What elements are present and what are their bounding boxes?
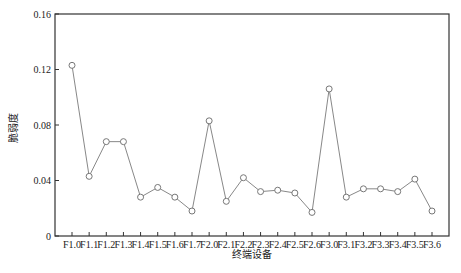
y-tick-label: 0 (46, 231, 51, 242)
data-point-marker (429, 208, 435, 214)
data-point-marker (138, 194, 144, 200)
plot-frame (55, 14, 449, 236)
x-tick-label: F3.2 (354, 239, 372, 250)
x-tick-label: F1.1 (80, 239, 98, 250)
data-point-marker (395, 189, 401, 195)
x-tick-label: F1.3 (114, 239, 132, 250)
data-point-marker (412, 176, 418, 182)
data-point-marker (172, 194, 178, 200)
data-series (69, 62, 435, 215)
data-point-marker (240, 175, 246, 181)
x-tick-label: F1.5 (149, 239, 167, 250)
x-axis-ticks: F1.0F1.1F1.2F1.3F1.4F1.5F1.6F1.7F2.0F2.1… (63, 232, 441, 250)
data-point-marker (309, 209, 315, 215)
data-point-marker (292, 190, 298, 196)
data-point-marker (69, 62, 75, 68)
x-tick-label: F3.5 (406, 239, 424, 250)
data-point-marker (86, 173, 92, 179)
data-point-marker (326, 86, 332, 92)
data-point-marker (206, 118, 212, 124)
y-tick-label: 0.16 (34, 9, 52, 20)
y-axis-title: 脆弱度 (7, 113, 19, 143)
data-point-marker (258, 189, 264, 195)
data-point-marker (275, 187, 281, 193)
x-axis-title: 终端设备 (232, 248, 272, 260)
plot-border (55, 14, 449, 236)
y-tick-label: 0.04 (34, 175, 52, 186)
data-point-marker (120, 139, 126, 145)
y-tick-label: 0.12 (34, 64, 52, 75)
x-tick-label: F3.6 (423, 239, 441, 250)
x-tick-label: F1.7 (183, 239, 201, 250)
line-chart: 00.040.080.120.16 F1.0F1.1F1.2F1.3F1.4F1… (0, 0, 461, 273)
data-point-marker (343, 194, 349, 200)
x-tick-label: F3.1 (337, 239, 355, 250)
data-point-marker (223, 198, 229, 204)
data-point-marker (103, 139, 109, 145)
data-point-marker (360, 186, 366, 192)
x-tick-label: F3.3 (372, 239, 390, 250)
x-tick-label: F1.0 (63, 239, 81, 250)
x-tick-label: F3.4 (389, 239, 407, 250)
y-tick-label: 0.08 (34, 120, 52, 131)
x-tick-label: F2.0 (200, 239, 218, 250)
x-tick-label: F2.5 (286, 239, 304, 250)
data-point-marker (155, 184, 161, 190)
data-point-marker (378, 186, 384, 192)
x-tick-label: F1.4 (132, 239, 150, 250)
x-tick-label: F1.2 (97, 239, 115, 250)
data-point-marker (189, 208, 195, 214)
x-tick-label: F1.6 (166, 239, 184, 250)
x-tick-label: F2.6 (303, 239, 321, 250)
x-tick-label: F3.0 (320, 239, 338, 250)
